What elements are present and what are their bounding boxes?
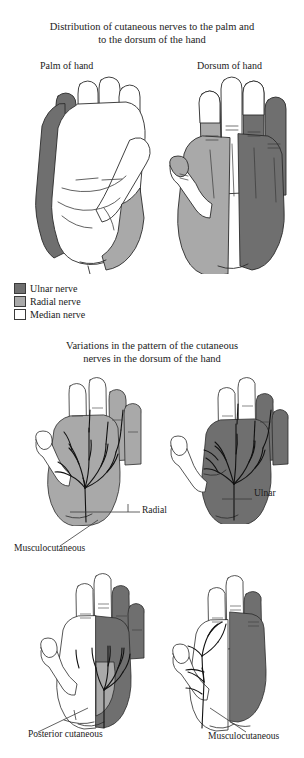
figure1-title-line2: to the dorsum of the hand [0,33,304,46]
callout-radial: Radial [142,505,167,516]
legend-swatch-ulnar [14,283,26,294]
legend-item-ulnar-nerve: Ulnar nerve [14,283,85,295]
figure2-title-line1: Variations in the pattern of the cutaneo… [0,339,304,352]
legend-label-radial: Radial nerve [30,297,81,307]
legend-swatch-radial [14,296,26,307]
callout-musculocutaneous-lower: Musculocutaneous [208,731,279,742]
dorsum-of-hand-illustration [168,74,298,274]
legend-label-median: Median nerve [30,310,85,320]
panel-label-dorsum-of-hand: Dorsum of hand [197,60,262,71]
legend-item-median-nerve: Median nerve [14,309,85,321]
figure1-title: Distribution of cutaneous nerves to the … [0,20,304,46]
figure2-title: Variations in the pattern of the cutaneo… [0,339,304,365]
palm-of-hand-illustration [18,76,154,274]
legend-swatch-median [14,309,26,320]
panel-label-palm-of-hand: Palm of hand [40,60,93,71]
callout-ulnar-leader [222,493,258,505]
illustration-page: Distribution of cutaneous nerves to the … [0,0,304,758]
figure2-title-line2: nerves in the dorsum of the hand [0,352,304,365]
callout-musculocutaneous-upper: Musculocutaneous [14,543,85,554]
callout-musculocutaneous-lower-leader [208,706,248,734]
callout-posterior-cutaneous: Posterior cutaneous [28,729,108,740]
figure1-legend: Ulnar nerve Radial nerve Median nerve [14,283,85,322]
legend-label-ulnar: Ulnar nerve [30,284,77,294]
figure1-title-line1: Distribution of cutaneous nerves to the … [0,20,304,33]
callout-ulnar: Ulnar [254,488,276,499]
legend-item-radial-nerve: Radial nerve [14,296,85,308]
